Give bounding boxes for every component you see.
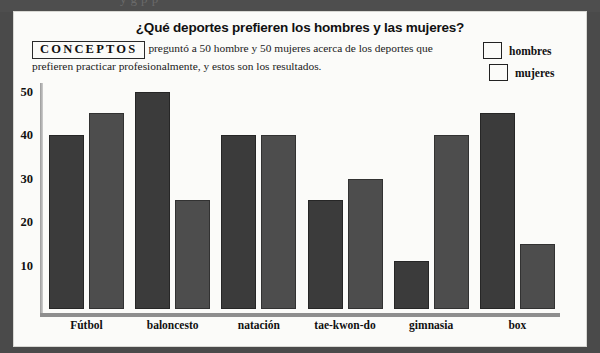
y-tick-40: 40 <box>21 128 34 143</box>
bar-hombres-box <box>480 113 515 309</box>
legend-swatch-hombres <box>483 42 502 59</box>
category-label-natación: natación <box>238 319 280 331</box>
bar-hombres-fútbol <box>49 135 84 309</box>
bar-chart-plot-area: 1020304050 Fútbolbaloncestonatacióntae-k… <box>40 83 560 313</box>
bar-mujeres-baloncesto <box>175 200 210 309</box>
category-label-fútbol: Fútbol <box>70 319 103 331</box>
y-tick-50: 50 <box>21 84 34 99</box>
category-label-gimnasia: gimnasia <box>409 319 453 331</box>
category-label-box: box <box>508 319 526 331</box>
category-label-baloncesto: baloncesto <box>147 319 199 331</box>
y-tick-20: 20 <box>21 215 34 230</box>
bar-mujeres-gimnasia <box>434 135 469 309</box>
chart-legend: hombres mujeres <box>483 42 578 86</box>
legend-item-hombres: hombres <box>483 42 578 59</box>
page-top-cutoff-strip: y g p p <box>0 0 600 12</box>
conceptos-logo: CONCEPTOS <box>32 41 145 59</box>
legend-swatch-mujeres <box>489 64 508 81</box>
bar-mujeres-tae-kwon-do <box>348 179 383 309</box>
page-title: ¿Qué deportes prefieren los hombres y la… <box>14 20 586 35</box>
bar-hombres-tae-kwon-do <box>308 200 343 309</box>
legend-label-hombres: hombres <box>509 45 552 57</box>
category-label-tae-kwon-do: tae-kwon-do <box>314 319 375 331</box>
y-tick-30: 30 <box>21 171 34 186</box>
bar-hombres-gimnasia <box>394 261 429 309</box>
legend-label-mujeres: mujeres <box>515 67 554 79</box>
bar-hombres-baloncesto <box>135 92 170 309</box>
bar-mujeres-fútbol <box>89 113 124 309</box>
bar-hombres-natación <box>221 135 256 309</box>
cutoff-text: y g p p <box>120 0 159 7</box>
bar-mujeres-natación <box>261 135 296 309</box>
bar-mujeres-box <box>520 244 555 309</box>
infographic-card: ¿Qué deportes prefieren los hombres y la… <box>14 12 586 346</box>
bar-series-container <box>43 83 560 309</box>
x-axis <box>40 313 560 317</box>
legend-item-mujeres: mujeres <box>483 64 578 81</box>
description-paragraph: CONCEPTOSpreguntó a 50 hombre y 50 mujer… <box>32 41 462 74</box>
y-tick-10: 10 <box>21 258 34 273</box>
